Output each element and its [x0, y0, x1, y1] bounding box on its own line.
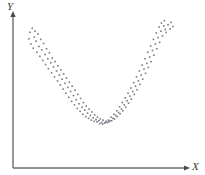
data-point [139, 70, 141, 72]
data-point [90, 115, 92, 117]
data-point [127, 92, 129, 94]
data-point [169, 28, 171, 30]
data-point [44, 54, 46, 56]
data-point [116, 116, 118, 118]
data-point [164, 20, 166, 22]
data-point [140, 74, 142, 76]
data-point [57, 80, 59, 82]
data-point [74, 90, 76, 92]
data-point [112, 118, 114, 120]
data-point [83, 102, 85, 104]
data-point [51, 57, 53, 59]
data-point [87, 112, 89, 114]
data-point [150, 61, 152, 63]
data-point [164, 29, 166, 31]
data-point [40, 39, 42, 41]
data-point [115, 115, 117, 117]
data-point [29, 32, 31, 34]
data-point [102, 123, 104, 125]
data-point [148, 67, 150, 69]
data-point [48, 68, 50, 70]
data-point [66, 77, 68, 79]
data-point [165, 32, 167, 34]
data-point [46, 48, 48, 50]
data-point [92, 117, 94, 119]
data-point [30, 43, 32, 45]
data-point [79, 111, 81, 113]
data-point [28, 38, 30, 40]
data-point [145, 73, 147, 75]
data-point [113, 113, 115, 115]
data-point [122, 102, 124, 104]
data-point [88, 118, 90, 120]
data-point [84, 109, 86, 111]
data-point [41, 49, 43, 51]
data-point [38, 46, 40, 48]
data-point [64, 82, 66, 84]
data-point [107, 122, 109, 124]
data-point [71, 101, 73, 103]
data-point [81, 106, 83, 108]
data-point [94, 114, 96, 116]
data-point [45, 64, 47, 66]
data-point [146, 63, 148, 65]
data-point [99, 123, 101, 125]
data-point [162, 35, 164, 37]
x-axis-arrow-icon [184, 165, 190, 170]
data-point [53, 66, 55, 68]
data-point [69, 81, 71, 83]
data-point [121, 108, 123, 110]
data-point [125, 106, 127, 108]
data-point [62, 88, 64, 90]
axes-group [10, 11, 190, 171]
data-point [123, 104, 125, 106]
data-point [119, 106, 121, 108]
data-point [49, 52, 51, 54]
data-point [70, 91, 72, 93]
data-point [110, 116, 112, 118]
data-point [101, 122, 103, 124]
data-point [97, 116, 99, 118]
data-point [54, 76, 56, 78]
data-point [150, 45, 152, 47]
data-point [126, 100, 128, 102]
data-point [118, 112, 120, 114]
data-point [128, 102, 130, 104]
data-point [170, 22, 172, 24]
data-point [147, 51, 149, 53]
data-point [135, 85, 137, 87]
data-point [108, 119, 110, 121]
data-point [172, 26, 174, 28]
data-point [50, 62, 52, 64]
data-point [43, 43, 45, 45]
data-point [129, 95, 131, 97]
data-point [102, 119, 104, 121]
data-point [153, 54, 155, 56]
data-point [155, 32, 157, 34]
data-point [138, 80, 140, 82]
data-point [82, 113, 84, 115]
scatter-plot-figure: Y X [0, 0, 205, 175]
data-point [136, 76, 138, 78]
data-point [111, 120, 113, 122]
data-point [57, 65, 59, 67]
data-point [105, 122, 107, 124]
data-point [80, 98, 82, 100]
data-point [35, 40, 37, 42]
data-point [136, 89, 138, 91]
data-point [122, 110, 124, 112]
data-point [63, 73, 65, 75]
data-point [114, 118, 116, 120]
data-point [51, 72, 53, 74]
data-point [60, 84, 62, 86]
data-point [131, 98, 133, 100]
data-point [67, 87, 69, 89]
data-point [76, 108, 78, 110]
data-point [163, 25, 165, 27]
data-point [54, 61, 56, 63]
data-point [95, 119, 97, 121]
data-point [71, 85, 73, 87]
data-point [85, 105, 87, 107]
data-point [75, 99, 77, 101]
data-point [124, 97, 126, 99]
